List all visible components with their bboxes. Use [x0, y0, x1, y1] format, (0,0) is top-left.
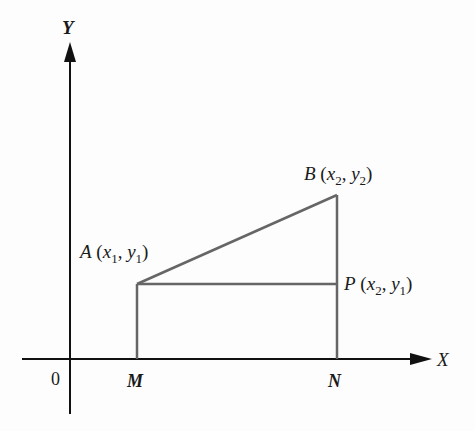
line-AB: [137, 195, 337, 284]
point-label-B: B (x2, y2): [304, 163, 372, 188]
x-axis-arrow-icon: [410, 353, 432, 365]
foot-label-M: M: [126, 371, 144, 391]
y-axis-label: Y: [62, 17, 76, 38]
point-label-P: P (x2, y1): [343, 273, 412, 298]
coordinate-diagram: Y X 0 M N A (x1, y1) B (x2, y2) P (x2, y…: [0, 0, 475, 431]
diagram-canvas: Y X 0 M N A (x1, y1) B (x2, y2) P (x2, y…: [0, 0, 475, 431]
x-axis-label: X: [436, 349, 450, 370]
origin-label: 0: [51, 369, 60, 389]
point-label-A: A (x1, y1): [78, 241, 148, 266]
foot-label-N: N: [327, 371, 342, 391]
y-axis-arrow-icon: [64, 42, 76, 62]
